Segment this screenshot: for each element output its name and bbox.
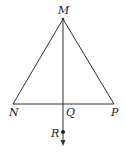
arrow-down-icon: [61, 140, 66, 146]
segment-mp: [63, 19, 114, 104]
label-n: N: [8, 106, 19, 119]
triangle-diagram: M N Q P R: [0, 0, 126, 153]
label-r: R: [50, 127, 59, 140]
segment-mn: [13, 19, 63, 104]
label-p: P: [110, 106, 119, 119]
label-m: M: [57, 4, 70, 17]
vertex-m-dot: [62, 18, 65, 21]
point-r-dot: [61, 130, 65, 134]
label-q: Q: [66, 106, 75, 119]
